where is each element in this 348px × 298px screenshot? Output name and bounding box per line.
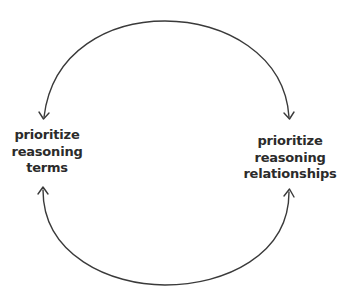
node-line: relationships xyxy=(236,166,344,183)
node-prioritize-reasoning-terms: prioritize reasoning terms xyxy=(0,127,94,177)
node-prioritize-reasoning-relationships: prioritize reasoning relationships xyxy=(236,133,344,183)
diagram-canvas: prioritize reasoning terms prioritize re… xyxy=(0,0,348,298)
top-arc xyxy=(44,21,289,117)
node-line: terms xyxy=(0,160,94,177)
node-line: prioritize xyxy=(236,133,344,150)
node-line: prioritize xyxy=(0,127,94,144)
node-line: reasoning xyxy=(0,144,94,161)
bottom-arc xyxy=(43,190,289,285)
node-line: reasoning xyxy=(236,150,344,167)
